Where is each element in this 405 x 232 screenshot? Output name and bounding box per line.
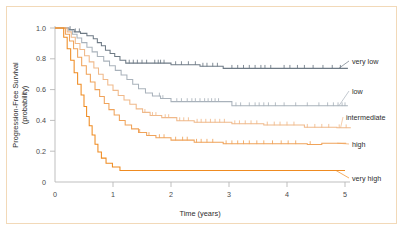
y-tick-label: 0.4 <box>36 116 46 125</box>
leader-line-low <box>339 91 349 106</box>
series-label-high: high <box>352 140 366 149</box>
curves-group <box>55 28 351 170</box>
leader-line-intermediate <box>341 117 343 128</box>
y-tick-label: 0.8 <box>36 54 46 63</box>
leader-line-high <box>337 143 349 144</box>
x-axis-title: Time (years) <box>179 209 220 218</box>
y-axis-title-line2: (probability) <box>20 86 29 125</box>
leader-line-very-low <box>339 61 349 68</box>
x-tick-label: 5 <box>343 190 347 199</box>
series-label-low: low <box>352 87 364 96</box>
km-curve-low <box>55 28 348 106</box>
x-tick-label: 4 <box>285 190 289 199</box>
leader-line-very-high <box>336 171 349 179</box>
series-label-very-high: very high <box>352 174 381 183</box>
x-tick-label: 3 <box>227 190 231 199</box>
series-label-very-low: very low <box>352 57 379 66</box>
kaplan-meier-chart: 01234500.20.40.60.81.0 very lowlowinterm… <box>0 0 405 232</box>
series-annotations-group: very lowlowintermediatehighvery high <box>336 57 386 183</box>
y-tick-label: 0 <box>42 178 46 187</box>
x-tick-label: 2 <box>169 190 173 199</box>
km-plot-svg: 01234500.20.40.60.81.0 very lowlowinterm… <box>0 0 405 232</box>
km-curve-high <box>55 28 346 145</box>
x-tick-label: 0 <box>53 190 57 199</box>
x-tick-label: 1 <box>111 190 115 199</box>
km-curve-very-low <box>55 28 348 68</box>
series-label-intermediate: intermediate <box>346 113 386 122</box>
y-tick-label: 1.0 <box>36 24 46 33</box>
y-tick-label: 0.2 <box>36 147 46 156</box>
y-tick-label: 0.6 <box>36 85 46 94</box>
y-axis-title-line1: Progression-Free Survival <box>11 62 20 148</box>
